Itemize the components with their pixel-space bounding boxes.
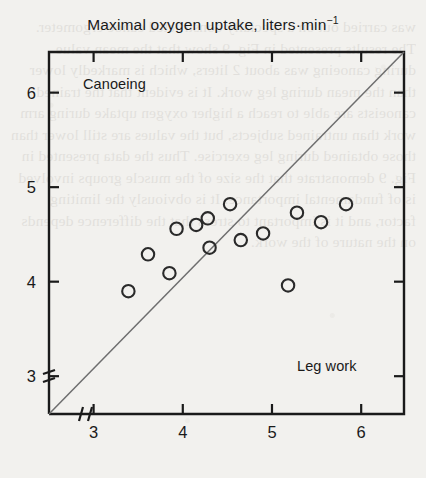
- data-point: [190, 219, 202, 231]
- svg-text:4: 4: [27, 273, 36, 291]
- data-point: [224, 198, 236, 210]
- plot-canvas: 34563456: [0, 0, 426, 478]
- axis-tick-labels: 34563456: [27, 84, 366, 441]
- svg-text:6: 6: [27, 84, 36, 102]
- data-point: [122, 285, 134, 297]
- data-point: [203, 241, 215, 253]
- line-of-identity: [49, 52, 404, 414]
- svg-text:6: 6: [357, 423, 366, 441]
- data-points: [122, 198, 352, 297]
- data-point: [235, 234, 247, 246]
- figure-scatter-plot: Maximal oxygen uptake, liters·min−1 Cano…: [0, 0, 426, 478]
- svg-text:3: 3: [89, 423, 98, 441]
- data-point: [170, 223, 182, 235]
- data-point: [257, 227, 269, 239]
- data-point: [202, 212, 214, 224]
- data-point: [315, 216, 327, 228]
- svg-text:5: 5: [267, 423, 276, 441]
- svg-text:4: 4: [178, 423, 187, 441]
- data-point: [142, 248, 154, 260]
- svg-text:5: 5: [27, 178, 36, 196]
- data-point: [291, 206, 303, 218]
- data-point: [340, 198, 352, 210]
- data-point: [163, 267, 175, 279]
- data-point: [282, 279, 294, 291]
- svg-text:3: 3: [27, 367, 36, 385]
